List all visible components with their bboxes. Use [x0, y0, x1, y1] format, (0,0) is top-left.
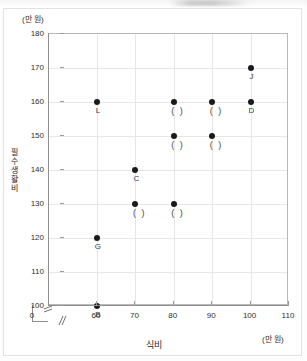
y-tick-mark — [60, 305, 64, 306]
data-point-label-blank: ( ) — [171, 106, 184, 116]
y-tick-mark — [60, 135, 64, 136]
data-point-label-blank: ( ) — [171, 140, 184, 150]
y-tick-label: 120 — [18, 233, 44, 242]
gridline-horizontal — [49, 272, 287, 273]
axis-origin-stub-horizontal — [32, 321, 48, 322]
y-tick-mark — [60, 33, 64, 34]
x-tick-label: 80 — [158, 311, 188, 320]
data-point — [94, 235, 100, 241]
y-axis-line — [48, 33, 49, 305]
data-point-label: C — [133, 174, 139, 183]
gridline-horizontal — [49, 170, 287, 171]
x-axis-title: 식비 — [0, 338, 307, 351]
x-tick-mark — [173, 301, 174, 306]
data-point-label: J — [249, 72, 253, 81]
x-tick-label: 110 — [273, 311, 303, 320]
y-axis-unit: (만 원) — [22, 13, 44, 24]
y-axis-ticks: 100110120130140150160170180 — [16, 33, 44, 305]
plot-area: LCGBJD( )( )( )( )( )( ) — [48, 33, 288, 305]
data-point-label-blank: ( ) — [210, 106, 223, 116]
x-tick-label: 70 — [119, 311, 149, 320]
y-tick-mark — [60, 203, 64, 204]
data-point-label: D — [249, 106, 255, 115]
y-tick-mark — [60, 67, 64, 68]
data-point-label-blank: ( ) — [133, 208, 146, 218]
y-tick-mark — [60, 237, 64, 238]
gridline-horizontal — [49, 136, 287, 137]
gridline-vertical — [212, 34, 213, 304]
y-tick-label: 180 — [18, 29, 44, 38]
x-axis-ticks: 060708090100110 — [0, 307, 307, 321]
data-point — [171, 133, 177, 139]
y-tick-mark — [60, 271, 64, 272]
data-point — [171, 201, 177, 207]
data-point — [132, 167, 138, 173]
scatter-plot-figure: (만 원) 필수생활비 LCGBJD( )( )( )( )( )( ) 100… — [0, 0, 307, 361]
data-point — [94, 99, 100, 105]
x-tick-mark — [211, 301, 212, 306]
x-tick-mark — [250, 301, 251, 306]
x-axis-line — [48, 305, 288, 306]
y-tick-label: 160 — [18, 97, 44, 106]
y-tick-label: 110 — [18, 267, 44, 276]
y-tick-label: 150 — [18, 131, 44, 140]
gridline-vertical — [97, 34, 98, 304]
scan-smudge — [170, 0, 250, 6]
x-tick-label: 60 — [81, 311, 111, 320]
x-tick-label: 90 — [196, 311, 226, 320]
y-tick-label: 140 — [18, 165, 44, 174]
y-tick-mark — [60, 169, 64, 170]
gridline-horizontal — [49, 204, 287, 205]
y-tick-label: 130 — [18, 199, 44, 208]
data-point — [248, 65, 254, 71]
data-point — [248, 99, 254, 105]
x-tick-mark — [134, 301, 135, 306]
data-point — [209, 99, 215, 105]
data-point-label-blank: ( ) — [210, 140, 223, 150]
y-tick-label: 170 — [18, 63, 44, 72]
x-tick-label: 0 — [17, 311, 47, 320]
y-tick-mark — [60, 101, 64, 102]
data-point — [171, 99, 177, 105]
x-tick-label: 100 — [235, 311, 265, 320]
data-point-label-blank: ( ) — [171, 208, 184, 218]
scan-artifact-top — [0, 0, 307, 8]
data-point — [209, 133, 215, 139]
x-tick-mark — [96, 301, 97, 306]
data-point-label: L — [96, 106, 101, 115]
gridline-horizontal — [49, 238, 287, 239]
gridline-vertical — [174, 34, 175, 304]
data-point — [132, 201, 138, 207]
data-point-label: G — [95, 242, 101, 251]
x-tick-mark — [288, 301, 289, 306]
